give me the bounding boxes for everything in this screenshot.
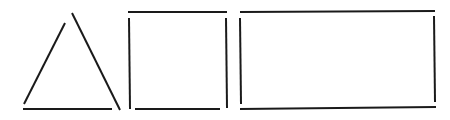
square-right-line	[226, 18, 227, 108]
rectangle-bottom-line	[240, 107, 436, 109]
triangle-shape	[23, 13, 120, 110]
rectangle-top-line	[240, 11, 435, 12]
square-left-line	[129, 18, 130, 109]
triangle-right-edge-line	[72, 13, 120, 110]
rectangle-shape	[240, 11, 436, 109]
rectangle-right-line	[434, 16, 435, 102]
square-shape	[128, 12, 227, 109]
rectangle-left-line	[240, 18, 241, 104]
shapes-canvas	[0, 0, 450, 120]
triangle-left-edge-line	[24, 23, 65, 104]
